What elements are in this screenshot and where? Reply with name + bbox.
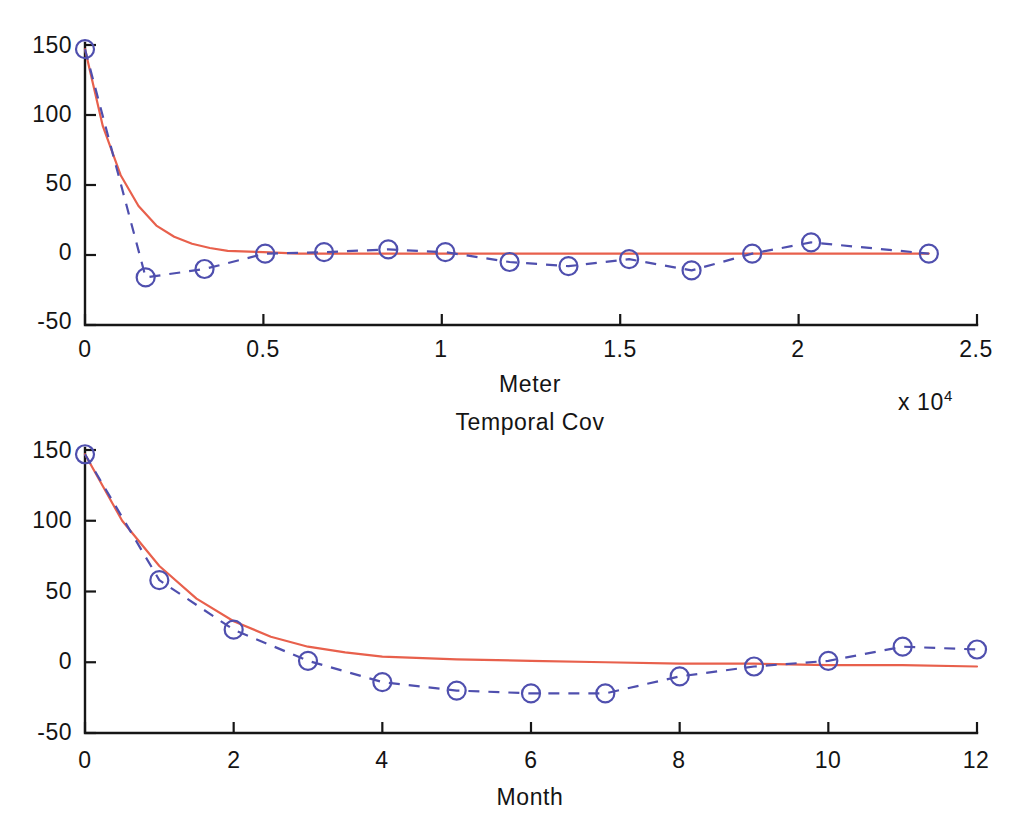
temporal-covariance-panel: Temporal Cov 150 100 50 0 -50 0 2 4 6 8 … <box>0 420 1024 830</box>
spatial-x-axis-label: Meter <box>499 373 561 396</box>
axis-spines <box>85 43 977 325</box>
temporal-covariance-plot <box>0 420 1024 830</box>
temporal-y-tick-100: 100 <box>10 509 72 532</box>
temporal-y-tick-0: 0 <box>10 650 72 673</box>
spatial-y-tick-150: 150 <box>10 34 72 57</box>
temporal-y-tick-50: 50 <box>10 580 72 603</box>
temporal-x-tick-12: 12 <box>963 749 990 772</box>
spatial-covariance-plot <box>0 0 1024 420</box>
spatial-y-tick-50: 50 <box>10 172 72 195</box>
temporal-y-tick-150: 150 <box>10 439 72 462</box>
data-point-marker <box>225 621 243 639</box>
data-point-marker <box>299 652 317 670</box>
temporal-y-tick-neg50: -50 <box>10 721 72 744</box>
temporal-x-tick-4: 4 <box>375 749 388 772</box>
temporal-x-tick-2: 2 <box>227 749 240 772</box>
spatial-x-exponent-base: x 10 <box>898 389 944 415</box>
spatial-x-exponent-label: x 104 <box>898 388 953 414</box>
model-curve <box>85 49 929 253</box>
temporal-x-tick-0: 0 <box>78 749 91 772</box>
spatial-x-exponent-power: 4 <box>944 387 953 404</box>
temporal-x-tick-10: 10 <box>815 749 842 772</box>
temporal-x-tick-8: 8 <box>672 749 685 772</box>
spatial-x-tick-0: 0 <box>78 338 91 361</box>
spatial-x-tick-0-5: 0.5 <box>246 338 279 361</box>
spatial-x-tick-2: 2 <box>791 338 804 361</box>
empirical-curve <box>85 454 977 693</box>
spatial-x-tick-1-5: 1.5 <box>603 338 636 361</box>
spatial-x-tick-2-5: 2.5 <box>959 338 992 361</box>
axis-spines <box>85 448 977 733</box>
model-curve <box>85 454 977 666</box>
data-point-marker <box>373 673 391 691</box>
data-point-marker <box>671 667 689 685</box>
spatial-covariance-panel: 150 100 50 0 -50 0 0.5 1 1.5 2 2.5 Meter… <box>0 0 1024 420</box>
spatial-y-tick-neg50: -50 <box>10 310 72 333</box>
spatial-y-tick-100: 100 <box>10 103 72 126</box>
temporal-x-tick-6: 6 <box>524 749 537 772</box>
temporal-x-axis-label: Month <box>497 786 564 809</box>
figure-root: 150 100 50 0 -50 0 0.5 1 1.5 2 2.5 Meter… <box>0 0 1024 830</box>
spatial-x-tick-1: 1 <box>434 338 447 361</box>
spatial-y-tick-0: 0 <box>10 241 72 264</box>
temporal-panel-title: Temporal Cov <box>455 411 604 434</box>
